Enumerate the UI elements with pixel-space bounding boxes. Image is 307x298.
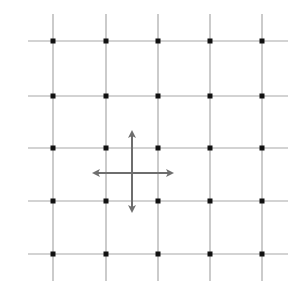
lattice-node [260,199,265,204]
lattice-node [208,94,213,99]
lattice-node [260,94,265,99]
lattice-node [104,94,109,99]
lattice-node [104,146,109,151]
lattice-node [208,39,213,44]
lattice-node [260,146,265,151]
lattice-node [260,39,265,44]
lattice-node [51,39,56,44]
lattice-node [208,252,213,257]
lattice-node [156,252,161,257]
lattice-node [51,252,56,257]
lattice-node [260,252,265,257]
lattice-node [208,199,213,204]
lattice-node [104,199,109,204]
lattice-node [51,199,56,204]
lattice-grid-canvas [0,0,307,298]
lattice-node [156,146,161,151]
lattice-node [104,252,109,257]
lattice-diagram [0,0,307,298]
lattice-node [156,199,161,204]
lattice-node [51,146,56,151]
lattice-node [208,146,213,151]
lattice-node [51,94,56,99]
lattice-node [156,39,161,44]
lattice-node [104,39,109,44]
lattice-node [156,94,161,99]
